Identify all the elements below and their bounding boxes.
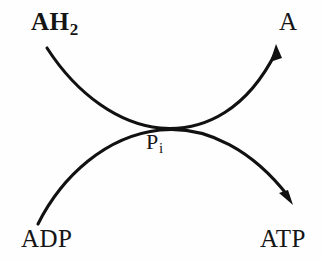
oxidized-product-label: A (279, 9, 298, 34)
oxidized-product-text: A (279, 8, 298, 35)
atp-label: ATP (260, 226, 306, 251)
inorganic-phosphate-label: Pi (146, 131, 163, 153)
oxidation-curve (47, 48, 276, 128)
reduced-substrate-label: AH2 (31, 9, 78, 34)
phosphorylation-arrowhead-icon (279, 190, 293, 205)
reduced-substrate-subscript: 2 (70, 20, 79, 39)
atp-text: ATP (260, 225, 306, 252)
oxidation-arrowhead-icon (270, 44, 282, 62)
reduced-substrate-text: AH (31, 8, 70, 35)
phosphate-text: P (146, 129, 159, 154)
phosphorylation-curve (38, 129, 288, 224)
adp-label: ADP (21, 226, 73, 251)
diagram-canvas (0, 0, 322, 260)
phosphate-subscript: i (159, 140, 163, 156)
coupled-reaction-figure: AH2 A ADP ATP Pi (0, 0, 322, 260)
adp-text: ADP (21, 225, 73, 252)
